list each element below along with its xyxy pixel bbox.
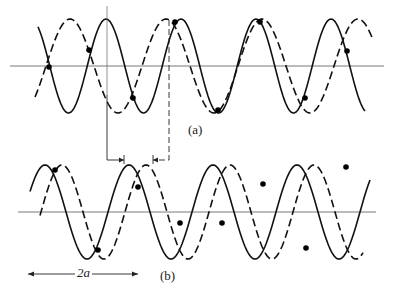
intersection-dot <box>215 107 221 113</box>
panel-b <box>18 164 376 259</box>
wave-diagram <box>0 0 393 294</box>
intersection-dot <box>135 184 141 190</box>
arrowhead-icon <box>119 158 124 163</box>
intersection-dot <box>95 247 101 253</box>
panel-b-label: (b) <box>160 268 175 284</box>
panel-a-label: (a) <box>188 122 202 138</box>
arrowhead-icon <box>153 158 158 163</box>
intersection-dot <box>177 220 183 226</box>
intersection-dot <box>344 48 350 54</box>
intersection-dot <box>303 245 309 251</box>
intersection-dot <box>130 95 136 101</box>
intersection-dot <box>52 167 58 173</box>
intersection-dot <box>343 164 349 170</box>
intersection-dot <box>257 19 263 25</box>
scale-bar-label: 2a <box>75 265 92 281</box>
intersection-dot <box>86 47 92 53</box>
arrow-right-icon <box>132 272 138 277</box>
connector-brackets <box>107 6 169 164</box>
intersection-dot <box>219 220 225 226</box>
panel-a <box>10 19 384 113</box>
intersection-dot <box>172 19 178 25</box>
intersection-dot <box>302 95 308 101</box>
arrow-left-icon <box>28 272 34 277</box>
intersection-dot <box>46 64 52 70</box>
intersection-dot <box>260 181 266 187</box>
